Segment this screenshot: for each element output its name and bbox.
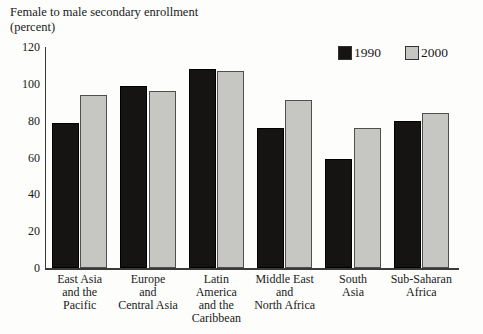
y-tick-label-100: 100 xyxy=(4,78,40,90)
y-tick-label-40: 40 xyxy=(4,188,40,200)
y-axis-line xyxy=(45,47,46,269)
bar-2000-1 xyxy=(149,91,176,268)
bar-2000-3 xyxy=(285,100,312,268)
legend-label-2000: 2000 xyxy=(421,45,448,61)
y-tick-label-60: 60 xyxy=(4,152,40,164)
y-tick-label-20: 20 xyxy=(4,225,40,237)
x-axis-line xyxy=(45,268,459,270)
category-label-5: Sub-Saharan Africa xyxy=(373,273,469,299)
legend-label-1990: 1990 xyxy=(354,45,381,61)
legend-item-2000: 2000 xyxy=(405,45,448,61)
bar-2000-2 xyxy=(217,71,244,268)
bar-2000-4 xyxy=(354,128,381,268)
y-tick-label-120: 120 xyxy=(4,41,40,53)
legend-swatch-2000 xyxy=(405,46,419,60)
bar-chart-figure: Female to male secondary enrollment (per… xyxy=(0,0,483,334)
chart-title-line1: Female to male secondary enrollment xyxy=(10,5,198,20)
bar-1990-5 xyxy=(394,121,421,268)
bar-1990-4 xyxy=(325,159,352,268)
bar-1990-2 xyxy=(189,69,216,268)
bar-1990-1 xyxy=(120,86,147,268)
y-tick-label-80: 80 xyxy=(4,115,40,127)
legend-item-1990: 1990 xyxy=(338,45,381,61)
legend-swatch-1990 xyxy=(338,46,352,60)
bar-1990-0 xyxy=(52,123,79,268)
legend: 1990 2000 xyxy=(338,45,448,61)
bar-1990-3 xyxy=(257,128,284,268)
chart-title-line2: (percent) xyxy=(10,20,198,35)
bar-2000-0 xyxy=(80,95,107,268)
bar-2000-5 xyxy=(422,113,449,268)
chart-title: Female to male secondary enrollment (per… xyxy=(10,5,198,34)
